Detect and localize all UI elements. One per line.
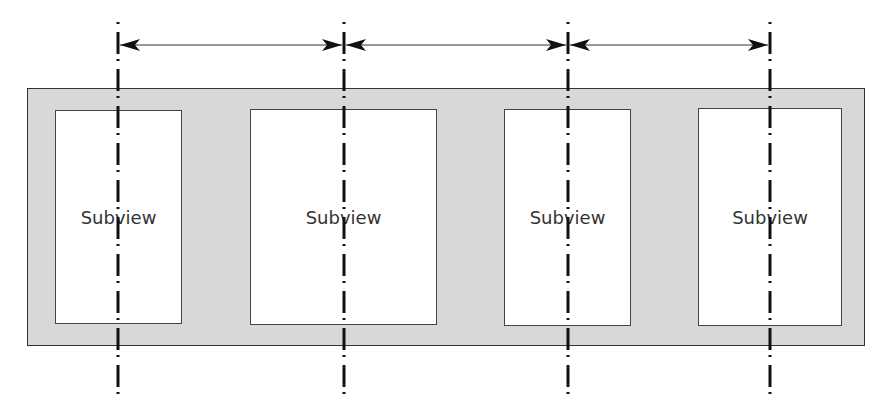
subview-4: Subview [698,108,842,326]
subview-1: Subview [55,110,182,324]
subview-label: Subview [81,207,157,228]
subview-label: Subview [732,207,808,228]
subview-2: Subview [250,109,437,325]
subview-label: Subview [306,207,382,228]
subview-label: Subview [530,207,606,228]
subview-3: Subview [504,109,631,326]
